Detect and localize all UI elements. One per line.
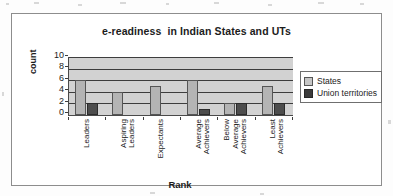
x-category-label: Achievers: [203, 119, 211, 154]
bar-states-below-average-achievers[interactable]: [224, 103, 235, 115]
scan-speck: [120, 2, 126, 4]
x-tick-mark: [292, 117, 293, 120]
bar-group-average-achievers: [181, 57, 218, 115]
bar-group-leaders: [69, 57, 106, 115]
x-axis-labels: Leaders Aspiring Leaders Expectants Aver…: [68, 117, 292, 179]
y-axis-label: count: [28, 50, 38, 75]
chart-legend: States Union territories: [300, 71, 382, 103]
bar-states-average-achievers[interactable]: [187, 80, 198, 115]
y-tick-label: 2: [59, 97, 64, 106]
scan-speck: [166, 3, 169, 5]
x-category-label: Leaders: [83, 119, 91, 148]
bar-union-territories-leaders[interactable]: [87, 103, 98, 115]
x-category-label: Expectants: [157, 119, 165, 159]
scan-speck: [318, 2, 324, 4]
scan-speck: [34, 2, 39, 4]
bar-group-least-achievers: [256, 57, 293, 115]
legend-swatch-icon: [304, 77, 313, 86]
bar-series-container: [69, 57, 293, 115]
scan-speck: [388, 120, 391, 124]
x-category-label: Achievers: [277, 119, 285, 154]
bar-union-territories-least-achievers[interactable]: [274, 103, 285, 115]
x-category-label: Below: [223, 119, 231, 141]
scan-speck: [360, 3, 364, 5]
bar-group-aspiring-leaders: [106, 57, 143, 115]
x-category-leaders: Leaders: [68, 117, 105, 179]
bar-states-least-achievers[interactable]: [262, 86, 273, 115]
bar-group-expectants: [144, 57, 181, 115]
chart-title: e-readiness in Indian States and UTs: [12, 25, 381, 37]
x-category-aspiring-leaders: Aspiring Leaders: [105, 117, 142, 179]
scan-speck: [2, 92, 4, 96]
bar-union-territories-below-average-achievers[interactable]: [236, 103, 247, 115]
bar-group-below-average-achievers: [218, 57, 255, 115]
bar-states-expectants[interactable]: [150, 86, 161, 115]
y-tick-label: 8: [59, 62, 64, 71]
x-category-average-achievers: Average Achievers: [180, 117, 217, 179]
legend-swatch-icon: [304, 89, 313, 98]
y-tick-label: 6: [59, 74, 64, 83]
legend-item-union-territories[interactable]: Union territories: [304, 87, 377, 99]
scan-speck: [150, 192, 155, 194]
y-tick-mark: [65, 55, 68, 56]
y-axis-ticks: 10 8 6 4 2 0: [42, 51, 66, 121]
y-tick-label: 0: [59, 108, 64, 117]
scan-speck: [260, 193, 264, 195]
legend-label: Union territories: [317, 89, 377, 98]
x-axis-label: Rank: [68, 179, 292, 190]
bar-states-aspiring-leaders[interactable]: [112, 92, 123, 115]
plot-area: [68, 57, 293, 116]
x-category-below-average-achievers: Below Average Achievers: [217, 117, 254, 179]
x-category-least-achievers: Least Achievers: [255, 117, 292, 179]
scan-speck: [6, 3, 9, 5]
x-category-label: Leaders: [128, 119, 136, 148]
legend-item-states[interactable]: States: [304, 75, 377, 87]
bar-states-leaders[interactable]: [75, 80, 86, 115]
scan-speck: [78, 4, 82, 6]
y-tick-label: 4: [59, 85, 64, 94]
bar-union-territories-average-achievers[interactable]: [199, 109, 210, 115]
scan-speck: [214, 2, 219, 4]
x-category-expectants: Expectants: [143, 117, 180, 179]
scanned-page: e-readiness in Indian States and UTs cou…: [0, 0, 393, 196]
scan-speck: [268, 4, 272, 6]
chart-frame: e-readiness in Indian States and UTs cou…: [11, 13, 382, 186]
legend-label: States: [317, 77, 341, 86]
y-tick-label: 10: [54, 51, 64, 60]
x-category-label: Achievers: [240, 119, 248, 154]
